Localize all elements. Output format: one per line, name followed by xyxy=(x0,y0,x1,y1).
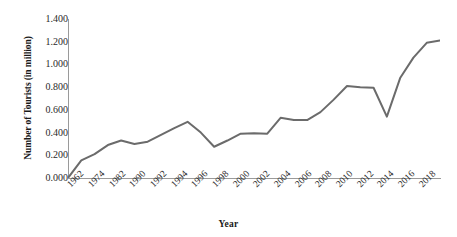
y-tick-label: 1.200 xyxy=(22,37,68,47)
x-axis-title: Year xyxy=(0,219,457,229)
y-tick-label: 1.400 xyxy=(22,14,68,24)
y-tick-label: 0.600 xyxy=(22,105,68,115)
tourists-series-line xyxy=(68,19,440,178)
tourist-line-chart: Number of Tourists (in million) 1.4001.2… xyxy=(0,0,457,237)
y-tick-label: 0.400 xyxy=(22,128,68,138)
y-tick-label: 0.200 xyxy=(22,150,68,160)
series-path xyxy=(68,41,440,178)
y-tick-label: 1.000 xyxy=(22,59,68,69)
y-axis-tick-labels: 1.4001.2001.0000.8000.6000.4000.2000.000 xyxy=(22,0,68,237)
y-tick-label: 0.800 xyxy=(22,82,68,92)
y-tick-label: 0.000 xyxy=(22,173,68,183)
plot-area xyxy=(68,19,440,178)
